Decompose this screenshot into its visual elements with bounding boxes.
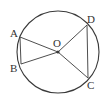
segment-od <box>58 25 87 52</box>
segment-oc <box>58 52 88 78</box>
label-c: C <box>87 79 94 91</box>
geometry-diagram: A B C D O <box>0 0 103 103</box>
segment-ab <box>20 37 21 64</box>
segment-ob <box>21 52 58 64</box>
center-point-o <box>56 50 59 53</box>
segments-group <box>20 25 88 78</box>
label-d: D <box>87 13 95 25</box>
label-b: B <box>10 62 17 74</box>
label-o: O <box>53 37 61 49</box>
segment-dc <box>87 25 88 78</box>
diagram-canvas: A B C D O <box>0 0 103 103</box>
label-a: A <box>10 27 18 39</box>
